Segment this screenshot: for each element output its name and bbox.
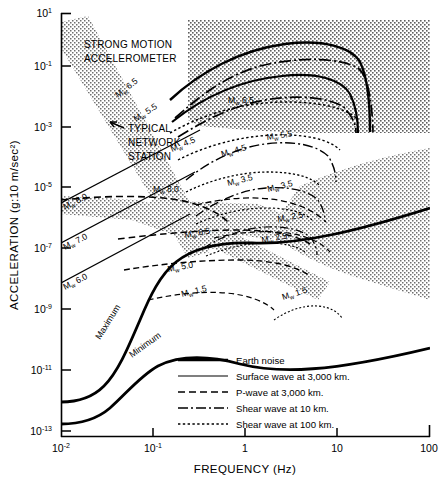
label-strong-motion-line2: ACCELEROMETER [84,53,177,64]
label-typical-line3: STATION [128,151,171,162]
label-strong-motion-line1: STRONG MOTION [84,39,172,50]
legend-label-earth-noise: Earth noise [236,355,285,366]
legend-label-surface-wave: Surface wave at 3,000 km. [236,371,350,382]
figure-root: 101 10-1 10-3 10-5 10-7 10-9 10-11 10-13… [0,0,446,485]
legend-label-shear-100km: Shear wave at 100 km. [236,419,334,430]
y-axis-title: ACCELERATION (g:10 m/sec²) [8,140,20,310]
chart-svg: 101 10-1 10-3 10-5 10-7 10-9 10-11 10-13… [0,0,446,485]
x-tick-label: 1 [242,442,248,454]
region-strong-motion-accelerometer [188,20,430,133]
x-axis-title: FREQUENCY (Hz) [194,463,297,475]
label-typical-line1: TYPICAL [128,123,171,134]
mw-label-shear100-6-5: Mw 6.5 [228,95,254,106]
x-tick-label: 100 [420,442,438,454]
mw-label-pwave-8-0: Mw 8.0 [153,184,179,195]
x-tick-label: 10 [331,442,343,454]
legend-label-p-wave: P-wave at 3,000 km. [236,387,323,398]
legend-label-shear-10km: Shear wave at 10 km. [236,403,329,414]
